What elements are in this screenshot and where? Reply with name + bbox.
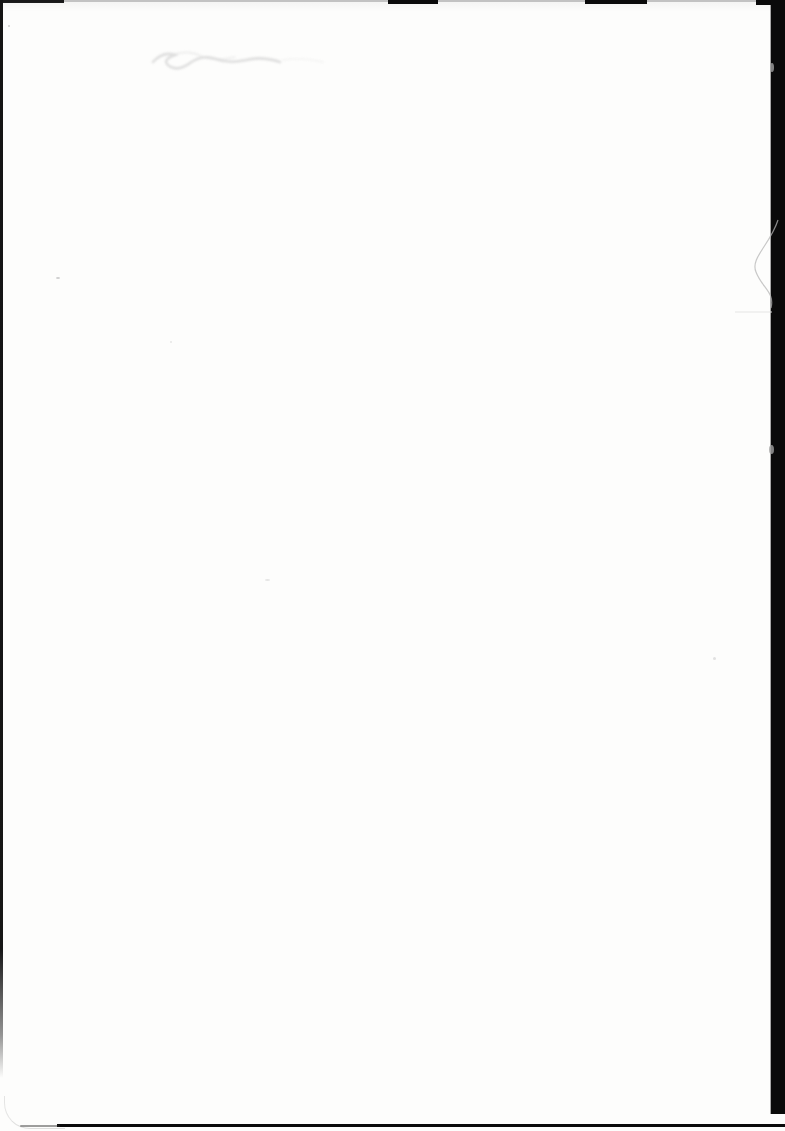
scan-edge-left (0, 0, 3, 1078)
dust-speck (265, 579, 270, 581)
scan-edge-bottom (57, 1124, 785, 1127)
scan-top-shadow (0, 2, 785, 12)
scan-edge-right (771, 0, 785, 1114)
page-corner-bottom-left (4, 1096, 65, 1129)
scan-bar-notch (770, 63, 774, 72)
dust-speck (170, 341, 172, 343)
scanned-blank-page (0, 0, 785, 1131)
dust-speck (56, 277, 60, 279)
hairline-scratch-artifact (690, 200, 785, 330)
scan-bar-notch (769, 445, 774, 454)
dust-speck (8, 25, 10, 27)
pencil-smudge-artifact (145, 42, 330, 78)
dust-speck (713, 657, 716, 660)
